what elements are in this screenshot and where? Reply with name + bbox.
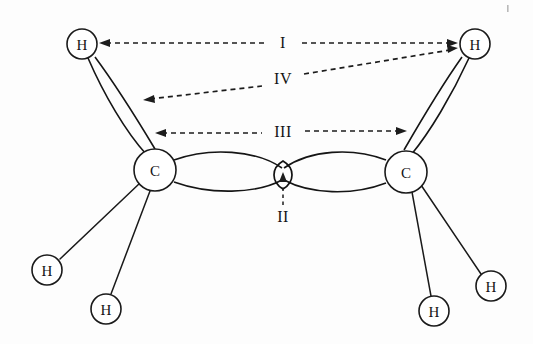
atom-label: H	[470, 37, 481, 53]
orbital-lobe-left-cc	[174, 152, 282, 191]
atom-h-bottom-right-1: H	[419, 296, 449, 326]
atom-c-right: C	[385, 151, 427, 193]
annotation-IV: IV	[143, 45, 458, 103]
orbital-diagram-svg: H (right) ================= --> I H (rig…	[0, 0, 533, 344]
annotation-label-I: I	[280, 34, 286, 51]
atom-label: H	[42, 263, 53, 279]
annotation-II: II	[277, 172, 289, 225]
atom-label: C	[150, 163, 160, 179]
atom-h-top-left: H	[67, 29, 97, 59]
atom-label: C	[401, 165, 411, 181]
atom-h-bottom-left-2: H	[91, 294, 121, 324]
bond-cright-hbr2	[421, 185, 481, 274]
atom-h-bottom-left-1: H	[32, 255, 62, 285]
bond-lines	[60, 183, 481, 296]
orbital-diagram-canvas: H (right) ================= --> I H (rig…	[0, 0, 533, 344]
orbital-lobe-left-ch	[88, 57, 155, 154]
atom-label: H	[486, 279, 497, 295]
annotation-I: I	[99, 34, 458, 51]
atom-label: H	[429, 304, 440, 320]
annotation-label-IV: IV	[274, 70, 292, 87]
bond-cleft-hbl2	[111, 191, 150, 294]
orbital-lobe-right-ch	[404, 57, 469, 155]
atom-label: H	[77, 37, 88, 53]
annotation-label-II: II	[277, 208, 289, 225]
annotation-label-III: III	[274, 123, 291, 140]
scan-speck	[507, 5, 509, 12]
annotation-III: III	[155, 123, 407, 140]
orbital-lobe-right-cc	[284, 152, 386, 192]
atom-label: H	[101, 302, 112, 318]
atom-h-bottom-right-2: H	[476, 271, 506, 301]
atom-h-top-right: H	[460, 29, 490, 59]
bond-cright-hbr1	[412, 192, 431, 296]
atom-c-left: C	[134, 149, 176, 191]
